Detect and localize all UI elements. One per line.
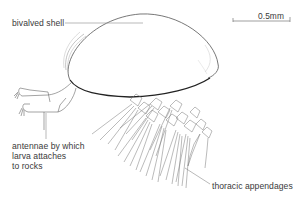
- antennae-label-line-2: larva attaches: [12, 151, 102, 161]
- thoracic-leader: [185, 168, 210, 184]
- antennae: [14, 82, 76, 130]
- larva-illustration: [0, 0, 300, 204]
- scale-bar-label: 0.5mm: [258, 11, 284, 21]
- bivalved-shell: [64, 14, 219, 97]
- antennae-label-line-3: to rocks: [12, 161, 102, 171]
- antennae-label-line-1: antennae by which: [12, 141, 102, 151]
- antennae-label: antennae by which larva attaches to rock…: [12, 141, 102, 171]
- bivalved-shell-label: bivalved shell: [12, 18, 64, 28]
- thoracic-appendages-label: thoracic appendages: [212, 181, 293, 191]
